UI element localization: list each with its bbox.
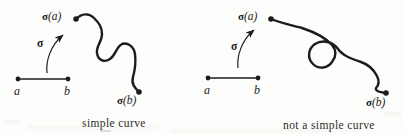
curve-end-label-sigma-b: σ(b) [366, 97, 385, 109]
curve-end-dot [383, 90, 389, 96]
endpoint-label-b: b [64, 85, 70, 97]
endpoint-label-b: b [254, 84, 260, 96]
curve-start-dot [73, 16, 79, 22]
endpoint-label-a: a [204, 84, 210, 96]
segment-endpoint-b-dot [256, 76, 261, 81]
simple-curve-figure: σ(a) σ a b σ(b) simple curve σ(a) σ a b … [0, 0, 403, 135]
non-simple-curve-path [271, 19, 386, 93]
caption-not-simple-curve: not a simple curve [283, 119, 375, 131]
curve-start-label-sigma-a: σ(a) [238, 11, 257, 23]
curve-start-label-sigma-a: σ(a) [42, 11, 61, 23]
mapping-arrow [238, 31, 253, 68]
sigma-argument: (a) [244, 10, 257, 22]
sigma-argument: (b) [372, 96, 385, 108]
curve-end-label-sigma-b: σ(b) [117, 95, 136, 107]
endpoint-label-a: a [14, 85, 20, 97]
sigma-argument: (a) [48, 10, 61, 22]
sigma-argument: (b) [123, 94, 136, 106]
mapping-label-sigma: σ [37, 38, 43, 50]
caption-simple-curve: simple curve [82, 117, 146, 129]
simple-curve-path [76, 14, 139, 92]
curve-end-dot [136, 89, 142, 95]
curve-start-dot [268, 16, 274, 22]
left-panel-drawing [16, 14, 142, 94]
mapping-label-sigma: σ [231, 41, 237, 53]
mapping-arrow [47, 36, 62, 73]
segment-endpoint-a-dot [206, 76, 211, 81]
segment-endpoint-b-dot [66, 77, 71, 82]
right-panel-drawing [206, 16, 389, 96]
segment-endpoint-a-dot [16, 77, 21, 82]
